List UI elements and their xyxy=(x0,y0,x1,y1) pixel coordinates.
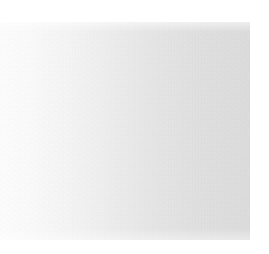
content-panel[interactable] xyxy=(0,22,250,240)
viewport xyxy=(0,0,269,254)
empty-content-area xyxy=(0,22,250,240)
